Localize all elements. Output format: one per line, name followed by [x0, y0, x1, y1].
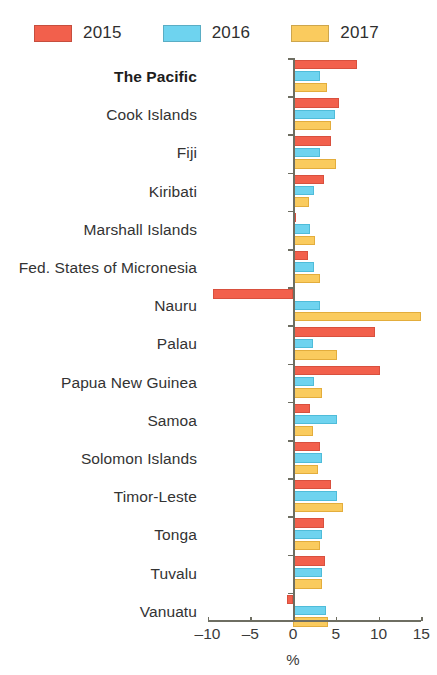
category-label: Fiji — [0, 134, 197, 172]
category-label: Tuvalu — [0, 554, 197, 592]
zero-axis-line — [293, 58, 295, 620]
bar-2015 — [293, 366, 380, 375]
bar-2015 — [293, 556, 325, 565]
bar-2017 — [293, 541, 320, 550]
bar-group — [197, 404, 437, 438]
bar-2017 — [293, 159, 336, 168]
chart-row: Tuvalu — [0, 554, 437, 592]
category-tick — [288, 58, 293, 60]
bar-2015 — [293, 404, 310, 413]
legend-swatch-2016 — [163, 25, 201, 42]
axis-tick-label: 5 — [331, 625, 340, 643]
bar-2017 — [293, 121, 331, 130]
chart-row: Nauru — [0, 287, 437, 325]
category-label: Fed. States of Micronesia — [0, 249, 197, 287]
chart-row: Timor-Leste — [0, 478, 437, 516]
axis-tick-label: –10 — [195, 625, 221, 643]
category-label: Tonga — [0, 516, 197, 554]
category-tick — [288, 593, 293, 595]
bar-2016 — [293, 606, 326, 615]
bar-2017 — [293, 312, 421, 321]
bar-2015 — [293, 251, 308, 260]
x-axis: –10–5051015 % — [197, 620, 437, 675]
category-tick — [288, 516, 293, 518]
category-label: Kiribati — [0, 173, 197, 211]
plot-area: The PacificCook IslandsFijiKiribatiMarsh… — [0, 58, 437, 620]
chart-row: Palau — [0, 325, 437, 363]
axis-tick-label: –5 — [242, 625, 259, 643]
bar-chart: 201520162017 The PacificCook IslandsFiji… — [0, 0, 437, 675]
category-tick — [288, 478, 293, 480]
legend-label: 2015 — [83, 23, 122, 43]
bar-2016 — [293, 415, 337, 424]
axis-tick-mark — [421, 617, 422, 621]
chart-row: Samoa — [0, 402, 437, 440]
bar-2015 — [293, 98, 339, 107]
bar-2015 — [293, 327, 375, 336]
chart-row: Tonga — [0, 516, 437, 554]
bar-group — [197, 60, 437, 94]
bar-2016 — [293, 262, 314, 271]
category-label: Vanuatu — [0, 593, 197, 631]
bar-2017 — [293, 83, 327, 92]
axis-tick-label: 10 — [370, 625, 387, 643]
bar-2016 — [293, 301, 320, 310]
category-label: Marshall Islands — [0, 211, 197, 249]
bar-group — [197, 480, 437, 514]
bar-group — [197, 556, 437, 590]
bar-2016 — [293, 453, 322, 462]
bar-group — [197, 327, 437, 361]
bar-2016 — [293, 71, 320, 80]
axis-tick-mark — [336, 617, 337, 621]
bar-2016 — [293, 568, 322, 577]
bar-2017 — [293, 579, 322, 588]
category-rows: The PacificCook IslandsFijiKiribatiMarsh… — [0, 58, 437, 631]
category-tick — [288, 555, 293, 557]
bar-2017 — [293, 465, 318, 474]
bar-2015 — [293, 518, 324, 527]
category-label: Nauru — [0, 287, 197, 325]
legend-swatch-2017 — [291, 25, 329, 42]
bar-2015 — [293, 60, 357, 69]
bar-2017 — [293, 388, 322, 397]
bar-2016 — [293, 110, 335, 119]
chart-row: Fed. States of Micronesia — [0, 249, 437, 287]
bar-2017 — [293, 274, 320, 283]
axis-tick-mark — [379, 617, 380, 621]
bar-2016 — [293, 148, 320, 157]
category-label: The Pacific — [0, 58, 197, 96]
category-tick — [288, 287, 293, 289]
bar-group — [197, 136, 437, 170]
category-label: Solomon Islands — [0, 440, 197, 478]
category-tick — [288, 325, 293, 327]
bar-group — [197, 518, 437, 552]
x-axis-line — [208, 620, 422, 622]
legend-item-2016: 2016 — [163, 23, 251, 43]
legend-swatch-2015 — [34, 25, 72, 42]
bar-2015 — [293, 175, 324, 184]
bar-2017 — [293, 197, 309, 206]
x-axis-title: % — [286, 651, 299, 668]
category-label: Timor-Leste — [0, 478, 197, 516]
bar-group — [197, 98, 437, 132]
category-tick — [288, 440, 293, 442]
bar-2017 — [293, 350, 337, 359]
category-label: Cook Islands — [0, 96, 197, 134]
legend-item-2017: 2017 — [291, 23, 379, 43]
bar-2017 — [293, 503, 343, 512]
category-tick — [288, 364, 293, 366]
legend-item-2015: 2015 — [34, 23, 122, 43]
category-tick — [288, 173, 293, 175]
bar-group — [197, 442, 437, 476]
axis-tick-label: 15 — [413, 625, 430, 643]
legend-label: 2016 — [212, 23, 251, 43]
legend-label: 2017 — [340, 23, 379, 43]
bar-group — [197, 289, 437, 323]
chart-row: Cook Islands — [0, 96, 437, 134]
bar-2016 — [293, 377, 314, 386]
bar-2015 — [293, 480, 331, 489]
category-label: Samoa — [0, 402, 197, 440]
category-tick — [288, 134, 293, 136]
chart-row: Marshall Islands — [0, 211, 437, 249]
axis-tick-label: 0 — [289, 625, 298, 643]
